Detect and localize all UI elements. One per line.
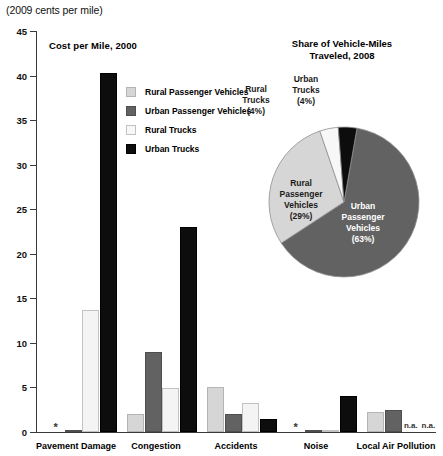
y-axis-tick [30, 387, 36, 388]
pie-slice-percent: (29%) [268, 211, 334, 222]
bar [305, 430, 322, 432]
bar [260, 419, 277, 432]
pie-slice-percent: (63%) [330, 234, 396, 245]
pie-slice-percent: (4%) [282, 96, 330, 107]
y-axis-tick-label: 40 [16, 70, 27, 81]
bar-group [127, 31, 197, 432]
pie-slice-label: UrbanTrucks(4%) [282, 74, 330, 107]
y-axis-tick [30, 298, 36, 299]
pie-slice-label-line: Urban [330, 201, 396, 212]
pie-slice-percent: (4%) [232, 106, 280, 117]
bar [145, 352, 162, 432]
pie-slice-label-line: Trucks [282, 85, 330, 96]
bar [340, 396, 357, 432]
unit-caption: (2009 cents per mile) [6, 4, 103, 16]
x-axis-category-label: Local Air Pollution [356, 441, 436, 451]
pie-slice-label-line: Vehicles [330, 223, 396, 234]
figure-canvas: (2009 cents per mile) Cost per Mile, 200… [0, 0, 443, 456]
y-axis-tick-label: 0 [22, 427, 27, 438]
pie-slice-label: RuralTrucks(4%) [232, 84, 280, 117]
bar [207, 387, 224, 432]
y-axis-tick [30, 432, 36, 433]
y-axis-tick-label: 45 [16, 26, 27, 37]
y-axis-tick-label: 10 [16, 337, 27, 348]
y-axis-tick-label: 5 [22, 382, 27, 393]
asterisk-marker: * [47, 423, 64, 432]
x-axis-category-label: Pavement Damage [36, 441, 116, 451]
pie-slice-label-line: Passenger [330, 212, 396, 223]
y-axis-tick [30, 254, 36, 255]
bar [127, 414, 144, 432]
pie-slice-label-line: Vehicles [268, 200, 334, 211]
bar-group: * [47, 31, 117, 432]
bar [242, 403, 259, 432]
pie-chart: UrbanPassengerVehicles(63%)RuralPassenge… [268, 126, 420, 278]
pie-slice-label-line: Rural [268, 178, 334, 189]
y-axis-tick-label: 25 [16, 204, 27, 215]
pie-slice-label-line: Urban [282, 74, 330, 85]
bar [367, 412, 384, 432]
x-axis-category-label: Noise [276, 441, 356, 451]
y-axis-tick-label: 20 [16, 248, 27, 259]
y-axis-tick-label: 15 [16, 293, 27, 304]
bar [162, 388, 179, 432]
y-axis-tick [30, 76, 36, 77]
y-axis-tick [30, 120, 36, 121]
y-axis-tick [30, 31, 36, 32]
y-axis-tick [30, 209, 36, 210]
bar [385, 410, 402, 432]
x-axis-category-label: Congestion [116, 441, 196, 451]
pie-slice-label-line: Rural [232, 84, 280, 95]
y-axis-tick-label: 30 [16, 159, 27, 170]
bar [225, 414, 242, 432]
x-axis-category-label: Accidents [196, 441, 276, 451]
y-axis-tick-label: 35 [16, 115, 27, 126]
pie-slice-label-line: Trucks [232, 95, 280, 106]
pie-slice-label: UrbanPassengerVehicles(63%) [330, 201, 396, 245]
x-axis-line [36, 432, 436, 433]
y-axis-tick [30, 343, 36, 344]
bar [100, 73, 117, 432]
bar [65, 430, 82, 432]
y-axis-line [36, 31, 37, 433]
bar [82, 310, 99, 432]
y-axis-tick [30, 165, 36, 166]
asterisk-marker: * [287, 423, 304, 432]
bar [322, 430, 339, 432]
not-available-marker: n.a. [402, 421, 419, 430]
bar [180, 227, 197, 432]
pie-slice-label-line: Passenger [268, 189, 334, 200]
pie-slice-label: RuralPassengerVehicles(29%) [268, 178, 334, 222]
not-available-marker: n.a. [420, 421, 437, 430]
